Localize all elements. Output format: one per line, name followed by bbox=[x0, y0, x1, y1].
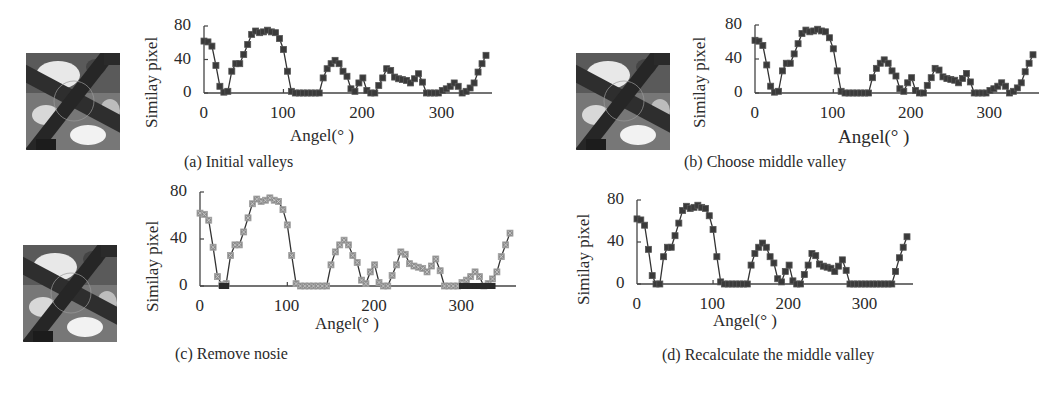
data-marker bbox=[813, 253, 819, 259]
caption-d: (d) Recalculate the middle valley bbox=[662, 346, 874, 364]
data-marker bbox=[798, 281, 804, 287]
data-marker bbox=[843, 267, 849, 273]
data-marker bbox=[893, 268, 899, 274]
data-marker bbox=[786, 262, 792, 268]
y-tick-label: 80 bbox=[607, 189, 624, 209]
data-marker bbox=[676, 220, 682, 226]
chart-plot bbox=[0, 0, 1042, 393]
y-tick-label: 40 bbox=[607, 231, 624, 251]
data-marker bbox=[889, 281, 895, 287]
data-marker bbox=[645, 246, 651, 252]
data-marker bbox=[672, 233, 678, 239]
y-tick-label: 0 bbox=[616, 273, 625, 293]
data-marker bbox=[752, 251, 758, 257]
x-tick-label: 300 bbox=[852, 294, 878, 314]
data-marker bbox=[767, 254, 773, 260]
data-marker bbox=[839, 257, 845, 263]
data-marker bbox=[748, 262, 754, 268]
data-marker bbox=[763, 244, 769, 250]
data-marker bbox=[710, 226, 716, 232]
data-marker bbox=[782, 268, 788, 274]
data-marker bbox=[805, 262, 811, 268]
data-marker bbox=[771, 260, 777, 266]
data-marker bbox=[649, 273, 655, 279]
series-line bbox=[637, 205, 907, 284]
data-marker bbox=[904, 234, 910, 240]
data-marker bbox=[836, 263, 842, 269]
data-marker bbox=[642, 222, 648, 228]
data-marker bbox=[657, 281, 663, 287]
data-marker bbox=[668, 244, 674, 250]
data-marker bbox=[779, 279, 785, 285]
x-tick-label: 200 bbox=[776, 294, 802, 314]
y-axis-label: Similay pixel bbox=[574, 214, 594, 305]
data-marker bbox=[706, 213, 712, 219]
data-marker bbox=[702, 205, 708, 211]
x-tick-label: 0 bbox=[633, 294, 642, 314]
data-marker bbox=[801, 272, 807, 278]
data-marker bbox=[661, 254, 667, 260]
data-marker bbox=[900, 244, 906, 250]
data-marker bbox=[744, 281, 750, 287]
data-marker bbox=[714, 254, 720, 260]
data-marker bbox=[896, 255, 902, 261]
x-axis-label: Angel(° ) bbox=[713, 311, 777, 331]
